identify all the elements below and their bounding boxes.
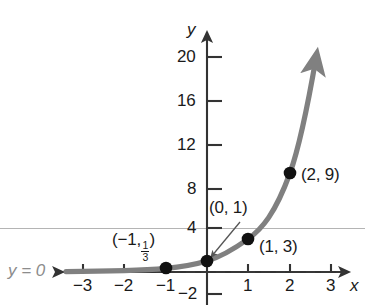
y-tick-label-16: 16 (177, 92, 195, 109)
point-label-0-1: (0, 1) (209, 199, 247, 216)
y-tick-label-20: 20 (177, 48, 195, 65)
point-label-neg1-one-third: (−1,13) (112, 231, 155, 263)
y-axis-label: y (187, 21, 196, 38)
point-label-1-3: (1, 3) (259, 238, 297, 255)
graph-figure: y x 20 16 12 8 4 −2 −3 −2 −1 1 2 3 y = 0… (0, 0, 365, 305)
point-label-2-9: (2, 9) (301, 166, 339, 183)
fraction-one-third: 13 (141, 240, 149, 262)
y-tick-label-8: 8 (187, 180, 196, 197)
y-tick-label-12: 12 (177, 136, 195, 153)
fraction-numerator: 1 (141, 240, 149, 251)
point-label-neg1-prefix: (−1, (112, 230, 141, 249)
x-tick-label-1: 1 (243, 277, 252, 294)
point-neg1-one-third (160, 262, 173, 275)
y-tick-label-4: 4 (187, 219, 196, 236)
point-1-3 (242, 233, 255, 246)
data-points (160, 167, 297, 275)
point-0-1 (201, 255, 214, 268)
fraction-denominator: 3 (141, 251, 149, 263)
x-tick-label-2: 2 (285, 277, 294, 294)
x-tick-label-3: 3 (326, 277, 335, 294)
x-axis-label: x (350, 277, 359, 294)
asymptote-label: y = 0 (8, 262, 45, 279)
x-tick-label-neg2: −2 (114, 277, 133, 294)
x-tick-label-neg1: −1 (156, 277, 175, 294)
y-tick-label-neg2: −2 (178, 285, 197, 302)
point-2-9 (284, 167, 297, 180)
point-label-neg1-suffix: ) (150, 230, 155, 249)
x-tick-label-neg3: −3 (73, 277, 92, 294)
